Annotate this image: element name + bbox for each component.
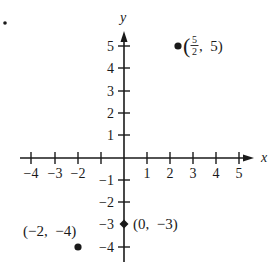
x-tick-label: 2 (167, 166, 174, 181)
x-axis-label: x (260, 150, 268, 165)
y-tick-label: 2 (107, 106, 114, 121)
y-tick-label: 3 (107, 84, 114, 99)
x-tick-label: −3 (48, 166, 63, 181)
point-label-open-paren: ( (183, 33, 190, 58)
y-tick-label: 1 (107, 128, 114, 143)
point-0-neg3: (0, −3) (120, 216, 178, 233)
x-tick-label: 3 (190, 166, 197, 181)
x-axis-arrow-icon (243, 155, 254, 162)
y-tick-label: −3 (99, 217, 114, 232)
y-tick-label: −2 (99, 195, 114, 210)
point-label-numerator: 5 (192, 34, 197, 45)
point-label: (0, −3) (133, 216, 178, 233)
y-tick-labels: 5 4 3 2 1 −1 −2 −3 −4 (99, 39, 114, 255)
point-label-denominator: 2 (192, 46, 197, 57)
coordinate-plane: x y −4 −3 −2 1 2 3 4 5 (0, 0, 278, 262)
y-axis-label: y (118, 10, 127, 25)
y-tick-label: −1 (99, 173, 114, 188)
x-tick-label: 4 (213, 166, 220, 181)
point-marker (74, 243, 81, 250)
bullet-marker (3, 21, 7, 25)
y-tick-label: −4 (99, 240, 114, 255)
point-marker (174, 42, 181, 49)
x-tick-label: −2 (71, 166, 86, 181)
point-label-rest: , 5) (199, 38, 223, 55)
x-tick-labels: −4 −3 −2 1 2 3 4 5 (24, 166, 243, 181)
point-5-2-5: ( 5 2 , 5) (174, 33, 222, 58)
point-neg2-neg4: (−2, −4) (23, 223, 82, 251)
point-marker (120, 220, 129, 229)
point-label: (−2, −4) (23, 223, 76, 240)
x-axis: x (20, 150, 268, 165)
y-axis-arrow-icon (121, 31, 128, 42)
x-tick-label: 1 (144, 166, 151, 181)
y-tick-label: 4 (107, 61, 114, 76)
x-tick-label: 5 (236, 166, 243, 181)
x-tick-label: −4 (24, 166, 39, 181)
y-tick-label: 5 (107, 39, 114, 54)
